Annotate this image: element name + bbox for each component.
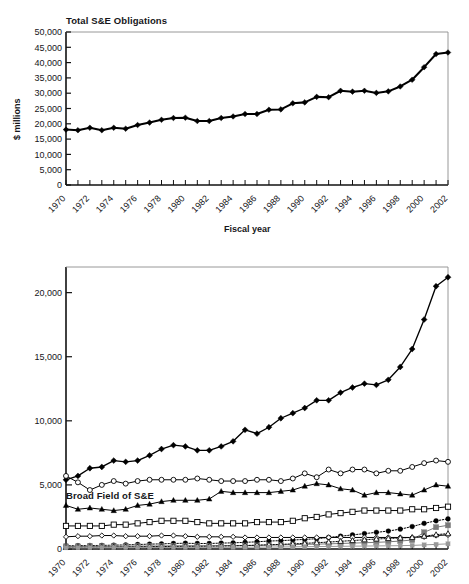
x-tick-label: 2000 bbox=[404, 557, 425, 578]
y-tick-label: 15,000 bbox=[34, 352, 62, 362]
y-tick-label: 20,000 bbox=[34, 119, 62, 129]
x-tick-label: 2000 bbox=[404, 193, 425, 214]
x-tick-label: 1974 bbox=[94, 557, 115, 578]
x-tick-label: 1986 bbox=[237, 193, 258, 214]
y-tick-label: 45,000 bbox=[34, 43, 62, 53]
x-tick-label: 1994 bbox=[333, 193, 354, 214]
x-tick-label: 1992 bbox=[309, 193, 330, 214]
x-tick-label: 1988 bbox=[261, 557, 282, 578]
chart-canvas-top: 05,00010,00015,00020,00025,00030,00035,0… bbox=[0, 0, 469, 240]
x-tick-label: 1976 bbox=[118, 557, 139, 578]
x-tick-label: 1984 bbox=[213, 193, 234, 214]
x-tick-label: 1996 bbox=[357, 557, 378, 578]
y-tick-label: 20,000 bbox=[34, 288, 62, 298]
x-tick-label: 1990 bbox=[285, 557, 306, 578]
y-tick-label: 5,000 bbox=[39, 480, 62, 490]
series-layer bbox=[63, 50, 451, 133]
y-tick-label: 40,000 bbox=[34, 58, 62, 68]
x-tick-label: 1972 bbox=[70, 557, 91, 578]
series-line bbox=[66, 461, 448, 490]
x-tick-label: 1974 bbox=[94, 193, 115, 214]
data-series-1 bbox=[64, 458, 451, 492]
y-tick-label: 10,000 bbox=[34, 150, 62, 160]
y-tick-label: 50,000 bbox=[34, 27, 62, 37]
x-tick-label: 1970 bbox=[46, 557, 67, 578]
figure-root: Total S&E Obligations $ millions Fiscal … bbox=[0, 0, 469, 584]
x-tick-label: 2002 bbox=[428, 557, 449, 578]
x-tick-label: 1978 bbox=[142, 557, 163, 578]
data-series-0 bbox=[63, 274, 451, 482]
data-series-0 bbox=[63, 50, 451, 133]
x-tick-label: 1986 bbox=[237, 557, 258, 578]
x-tick-label: 1990 bbox=[285, 193, 306, 214]
y-tick-label: 30,000 bbox=[34, 88, 62, 98]
x-tick-label: 2002 bbox=[428, 193, 449, 214]
x-tick-label: 1992 bbox=[309, 557, 330, 578]
chart-panel-broad-field-of-se: Broad Field of S&E $ millions 05,00010,0… bbox=[0, 240, 469, 584]
x-tick-label: 1998 bbox=[380, 557, 401, 578]
x-tick-label: 1998 bbox=[380, 193, 401, 214]
chart-panel-total-se-obligations: Total S&E Obligations $ millions Fiscal … bbox=[0, 0, 469, 240]
x-tick-label: 1978 bbox=[142, 193, 163, 214]
x-tick-label: 1996 bbox=[357, 193, 378, 214]
x-tick-label: 1982 bbox=[189, 193, 210, 214]
x-tick-label: 1988 bbox=[261, 193, 282, 214]
x-tick-label: 1976 bbox=[118, 193, 139, 214]
y-tick-label: 25,000 bbox=[34, 104, 62, 114]
y-tick-label: 0 bbox=[57, 180, 62, 190]
y-tick-label: 0 bbox=[57, 544, 62, 554]
y-tick-label: 15,000 bbox=[34, 134, 62, 144]
data-series-2 bbox=[63, 481, 450, 513]
y-tick-label: 10,000 bbox=[34, 416, 62, 426]
data-series-5 bbox=[63, 532, 450, 540]
x-tick-label: 1994 bbox=[333, 557, 354, 578]
series-line bbox=[66, 484, 448, 511]
x-tick-label: 1980 bbox=[166, 193, 187, 214]
x-tick-label: 1972 bbox=[70, 193, 91, 214]
line-chart-bottom: 05,00010,00015,00020,0001970197219741976… bbox=[0, 240, 469, 584]
series-line bbox=[66, 277, 448, 480]
line-chart-top: 05,00010,00015,00020,00025,00030,00035,0… bbox=[0, 0, 469, 240]
data-series-3 bbox=[63, 504, 450, 528]
x-tick-label: 1982 bbox=[189, 557, 210, 578]
x-tick-label: 1984 bbox=[213, 557, 234, 578]
x-tick-label: 1980 bbox=[166, 557, 187, 578]
chart-canvas-bottom: 05,00010,00015,00020,0001970197219741976… bbox=[0, 240, 469, 584]
series-layer bbox=[63, 274, 451, 549]
y-tick-label: 35,000 bbox=[34, 73, 62, 83]
x-tick-label: 1970 bbox=[46, 193, 67, 214]
y-tick-label: 5,000 bbox=[39, 165, 62, 175]
